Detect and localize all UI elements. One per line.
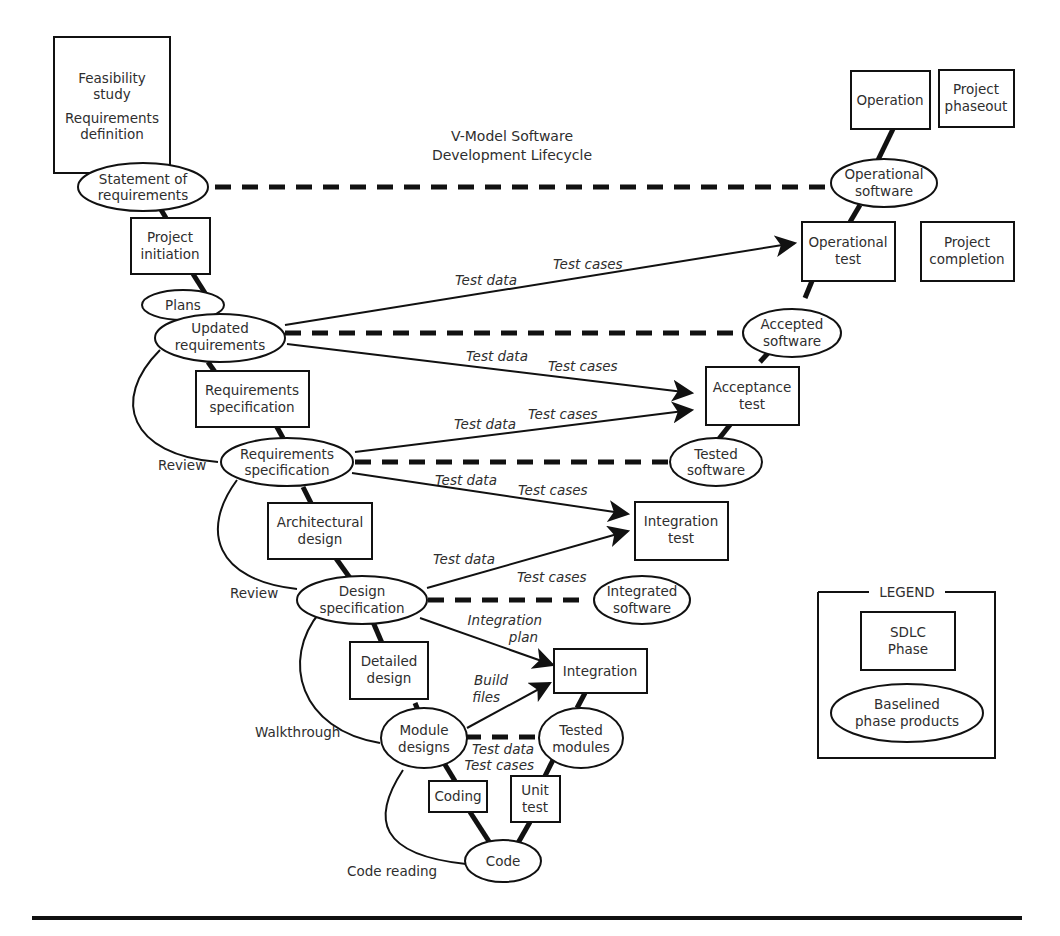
svg-text:Phase: Phase	[888, 641, 928, 657]
svg-text:completion: completion	[929, 251, 1004, 267]
legend-phase-swatch: SDLC Phase	[861, 612, 955, 670]
svg-text:requirements: requirements	[175, 337, 265, 353]
svg-text:Acceptance: Acceptance	[713, 379, 792, 395]
svg-text:Coding: Coding	[434, 788, 481, 804]
svg-text:software: software	[613, 600, 671, 616]
svg-text:Project: Project	[953, 81, 999, 97]
svg-text:Feasibility: Feasibility	[78, 70, 146, 86]
svg-text:phase products: phase products	[855, 713, 959, 729]
svg-text:SDLC: SDLC	[890, 624, 926, 640]
svg-text:Test data: Test data	[433, 551, 495, 567]
legend-product-swatch: Baselined phase products	[831, 684, 983, 742]
svg-text:software: software	[855, 183, 913, 199]
svg-text:Updated: Updated	[191, 320, 248, 336]
svg-text:Accepted: Accepted	[761, 316, 824, 332]
svg-text:software: software	[763, 333, 821, 349]
svg-text:Unit: Unit	[521, 782, 548, 798]
svg-text:Statement of: Statement of	[99, 171, 189, 187]
svg-text:Architectural: Architectural	[277, 514, 364, 530]
svg-text:Test cases: Test cases	[548, 358, 618, 374]
phase-operation: Operation	[851, 71, 930, 129]
phase-detailed-design: Detailed design	[350, 642, 428, 699]
svg-text:Test data: Test data	[466, 348, 528, 364]
product-integrated-software: Integrated software	[594, 576, 690, 624]
diagram-title: V-Model Software	[451, 128, 573, 144]
svg-text:Baselined: Baselined	[874, 696, 940, 712]
svg-text:Requirements: Requirements	[205, 382, 299, 398]
product-tested-modules: Tested modules	[539, 708, 623, 768]
svg-text:plan: plan	[508, 629, 538, 645]
svg-text:Plans: Plans	[165, 297, 201, 313]
svg-text:Review: Review	[158, 457, 206, 473]
phase-requirements-specification: Requirements specification	[196, 371, 309, 427]
svg-text:modules: modules	[552, 739, 610, 755]
product-accepted-software: Accepted software	[743, 309, 841, 357]
svg-text:design: design	[298, 531, 343, 547]
svg-text:LEGEND: LEGEND	[879, 584, 935, 600]
svg-text:Test cases: Test cases	[517, 569, 587, 585]
phase-coding: Coding	[429, 781, 487, 812]
product-updated-requirements: Updated requirements	[155, 314, 285, 362]
phase-feasibility: Feasibility study Requirements definitio…	[54, 37, 170, 173]
product-module-designs: Module designs	[381, 708, 467, 768]
svg-text:requirements: requirements	[98, 187, 188, 203]
svg-text:Test data: Test data	[435, 472, 497, 488]
svg-text:Test cases: Test cases	[464, 757, 534, 773]
diagram-subtitle: Development Lifecycle	[432, 147, 592, 163]
svg-text:specification: specification	[209, 399, 294, 415]
phase-operational-test: Operational test	[802, 222, 895, 281]
svg-text:Code reading: Code reading	[347, 863, 437, 879]
svg-text:specification: specification	[319, 600, 404, 616]
phase-project-phaseout: Project phaseout	[939, 70, 1014, 127]
svg-text:Walkthrough: Walkthrough	[255, 724, 340, 740]
svg-text:study: study	[93, 86, 130, 102]
phase-integration: Integration	[554, 649, 647, 693]
svg-text:Integration: Integration	[468, 612, 542, 628]
svg-text:Code: Code	[486, 853, 521, 869]
svg-text:test: test	[522, 799, 548, 815]
svg-text:definition: definition	[80, 126, 144, 142]
svg-text:test: test	[835, 251, 861, 267]
svg-text:Integration: Integration	[644, 513, 718, 529]
svg-text:test: test	[668, 530, 694, 546]
svg-text:Design: Design	[339, 583, 386, 599]
svg-text:files: files	[472, 689, 500, 705]
svg-text:Build: Build	[474, 672, 508, 688]
svg-text:Module: Module	[399, 722, 448, 738]
svg-text:Test data: Test data	[472, 741, 534, 757]
phase-unit-test: Unit test	[511, 776, 560, 822]
svg-text:Detailed: Detailed	[361, 653, 418, 669]
svg-text:software: software	[687, 462, 745, 478]
svg-text:Test data: Test data	[454, 416, 516, 432]
svg-text:specification: specification	[244, 462, 329, 478]
svg-text:Test cases: Test cases	[518, 482, 588, 498]
svg-text:Tested: Tested	[693, 446, 737, 462]
product-code: Code	[465, 840, 541, 882]
svg-text:design: design	[367, 670, 412, 686]
svg-text:Project: Project	[147, 229, 193, 245]
product-statement-of-requirements: Statement of requirements	[78, 163, 208, 211]
phase-acceptance-test: Acceptance test	[706, 367, 799, 425]
svg-text:Requirements: Requirements	[240, 446, 334, 462]
v-model-diagram: V-Model Software Development Lifecycle F…	[0, 0, 1060, 936]
legend: LEGEND SDLC Phase Baselined phase produc…	[818, 584, 995, 758]
phase-architectural-design: Architectural design	[268, 503, 372, 559]
svg-text:Operational: Operational	[808, 234, 887, 250]
product-requirements-specification: Requirements specification	[221, 438, 353, 486]
svg-text:Review: Review	[230, 585, 278, 601]
svg-text:Requirements: Requirements	[65, 110, 159, 126]
svg-text:Project: Project	[944, 234, 990, 250]
svg-text:Integration: Integration	[563, 663, 637, 679]
svg-text:designs: designs	[398, 739, 450, 755]
svg-text:Integrated: Integrated	[607, 583, 678, 599]
svg-text:Operational: Operational	[844, 166, 923, 182]
svg-text:test: test	[739, 396, 765, 412]
svg-text:Test cases: Test cases	[528, 406, 598, 422]
svg-text:Test data: Test data	[455, 272, 517, 288]
product-operational-software: Operational software	[831, 159, 937, 207]
product-tested-software: Tested software	[670, 438, 762, 486]
phase-project-completion: Project completion	[921, 222, 1014, 281]
svg-text:initiation: initiation	[140, 246, 199, 262]
product-design-specification: Design specification	[297, 576, 427, 624]
phase-project-initiation: Project initiation	[131, 218, 210, 274]
